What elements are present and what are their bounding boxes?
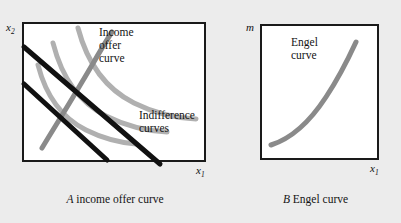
annotation-income-offer-curve: Income offer curve — [99, 26, 133, 65]
figure-container: x2 x1 Income offer curve Indifference cu… — [0, 0, 401, 223]
axis-label-x1-panel-b: x1 — [370, 163, 379, 177]
caption-a-text: income offer curve — [76, 193, 163, 205]
axis-label-x1-panel-a: x1 — [196, 165, 205, 179]
caption-panel-b: B Engel curve — [230, 194, 401, 206]
panel-b-curves — [262, 26, 377, 158]
axis-label-m: m — [246, 22, 254, 33]
caption-panel-a: A income offer curve — [0, 194, 230, 206]
panel-b-plot-area — [260, 24, 379, 160]
caption-a-letter: A — [66, 193, 73, 205]
indifference-curve-1 — [38, 65, 136, 144]
annotation-engel-curve: Engel curve — [291, 36, 318, 62]
indifference-curve-3 — [78, 28, 196, 119]
axis-label-x2: x2 — [6, 22, 15, 36]
panel-engel-curve: m x1 Engel curve B Engel curve — [230, 0, 401, 223]
annotation-indifference-curves: Indifference curves — [139, 109, 195, 135]
budget-line-1 — [24, 84, 107, 160]
caption-b-letter: B — [283, 193, 290, 205]
panel-income-offer-curve: x2 x1 Income offer curve Indifference cu… — [0, 0, 230, 223]
budget-line-2 — [24, 47, 160, 164]
caption-b-text: Engel curve — [293, 193, 348, 205]
